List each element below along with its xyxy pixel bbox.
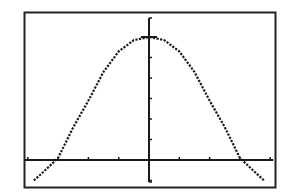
graph-screen <box>0 0 281 196</box>
